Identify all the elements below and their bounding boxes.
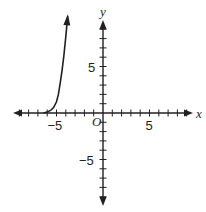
y-tick-label-neg5: −5 (79, 153, 94, 168)
curve-arrow-icon (63, 14, 70, 25)
y-axis-label: y (98, 4, 106, 19)
x-tick-label-neg5: −5 (48, 118, 63, 133)
y-axis-down-arrow-icon (100, 197, 107, 206)
x-tick-label-pos5: 5 (146, 118, 153, 133)
coordinate-plane: x y O −5 5 5 −5 (0, 0, 206, 212)
x-axis-label: x (195, 106, 202, 121)
origin-label: O (92, 114, 102, 129)
x-axis-right-arrow-icon (184, 110, 193, 117)
x-axis-left-arrow-icon (13, 110, 22, 117)
curve-line (44, 16, 68, 113)
y-tick-label-pos5: 5 (88, 60, 95, 75)
y-axis-up-arrow-icon (100, 20, 107, 29)
